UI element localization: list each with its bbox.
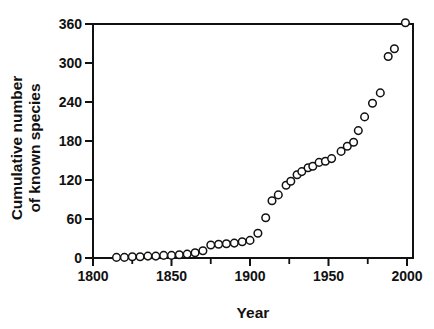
data-point	[223, 240, 231, 248]
y-tick-label: 180	[59, 133, 83, 149]
data-point	[391, 45, 399, 53]
y-tick-label: 360	[59, 16, 83, 32]
data-point	[355, 127, 363, 135]
x-tick-label: 1850	[156, 268, 187, 284]
y-axis-label-line1: Cumulative number	[8, 76, 25, 221]
y-tick-label: 60	[66, 211, 82, 227]
data-point	[377, 89, 385, 97]
scatter-chart-figure: 060120180240300360 18001850190019502000 …	[0, 0, 434, 329]
data-point	[361, 113, 369, 121]
plot-frame	[93, 24, 413, 258]
data-point	[262, 214, 270, 222]
data-point	[231, 239, 239, 247]
data-point	[113, 254, 121, 262]
data-point	[152, 252, 160, 260]
x-tick-label: 1800	[77, 268, 108, 284]
y-tick-label: 120	[59, 172, 83, 188]
data-point	[191, 249, 199, 257]
data-point	[402, 19, 410, 27]
y-tick-label: 0	[74, 250, 82, 266]
data-point	[121, 254, 129, 262]
data-point	[369, 100, 377, 108]
data-point	[199, 247, 207, 255]
data-point	[275, 191, 283, 199]
data-point	[238, 238, 246, 246]
y-axis-label-line2: of known species	[26, 83, 43, 212]
data-point	[144, 252, 152, 260]
data-point	[350, 139, 358, 147]
y-axis-ticks: 060120180240300360	[59, 16, 92, 266]
x-tick-label: 1950	[313, 268, 344, 284]
x-tick-label: 1900	[234, 268, 265, 284]
data-point	[168, 252, 176, 260]
data-points	[113, 19, 410, 261]
data-point	[136, 253, 144, 261]
chart-canvas: 060120180240300360 18001850190019502000 …	[0, 0, 434, 329]
data-point	[215, 241, 223, 249]
y-tick-label: 240	[59, 94, 83, 110]
x-axis-label: Year	[237, 304, 270, 321]
data-point	[183, 250, 191, 258]
y-tick-label: 300	[59, 55, 83, 71]
data-point	[268, 197, 276, 205]
data-point	[207, 241, 215, 249]
data-point	[328, 155, 336, 163]
data-point	[160, 252, 168, 260]
x-tick-label: 2000	[391, 268, 422, 284]
x-axis-ticks: 18001850190019502000	[77, 259, 422, 284]
data-point	[176, 251, 184, 259]
data-point	[384, 53, 392, 61]
data-point	[287, 178, 295, 186]
data-point	[246, 237, 254, 245]
data-point	[254, 230, 262, 238]
data-point	[129, 253, 137, 261]
